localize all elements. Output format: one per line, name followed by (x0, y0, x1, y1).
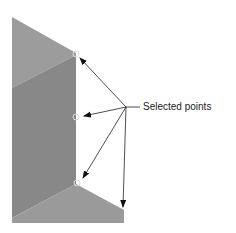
shape-diagram (0, 0, 236, 233)
arrows (80, 58, 140, 207)
selected-points-label: Selected points (143, 101, 211, 112)
